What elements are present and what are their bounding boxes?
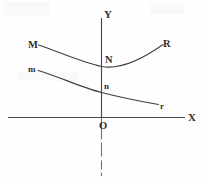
x-axis-label: X — [188, 112, 196, 123]
curve-label-M: M — [28, 40, 38, 51]
origin-label: O — [99, 121, 107, 132]
coordinate-plot — [0, 0, 205, 185]
figure-root: M R m r N n O X Y — [0, 0, 205, 185]
lower-curve — [38, 71, 159, 105]
upper-curve — [39, 45, 164, 68]
curve-label-R: R — [163, 39, 171, 50]
intercept-label-N: N — [105, 55, 113, 66]
curve-label-r: r — [160, 102, 164, 111]
y-axis-label: Y — [104, 9, 112, 20]
intercept-label-n: n — [104, 82, 109, 91]
curve-label-m: m — [28, 65, 36, 74]
